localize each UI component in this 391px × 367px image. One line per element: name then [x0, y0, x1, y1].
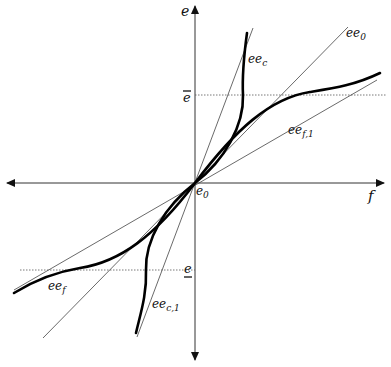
eec-label: eec: [248, 52, 267, 68]
eef-label: eef: [48, 279, 67, 295]
diagram-canvas: e f e0 ee0 eec eef,1 eef eec,1 e e: [0, 0, 391, 367]
e-axis-label: e: [181, 3, 189, 19]
ee0-label: ee0: [346, 26, 366, 42]
e-bar-label: e: [183, 90, 191, 105]
eef1-label: eef,1: [288, 123, 314, 139]
eec1-label: eec,1: [152, 297, 180, 313]
e-underbar-label: e: [184, 261, 192, 276]
origin-label: e0: [196, 184, 209, 200]
f-axis-label: f: [367, 187, 376, 205]
